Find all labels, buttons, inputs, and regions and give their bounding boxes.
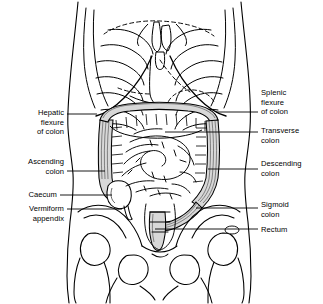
- label-transverse-colon: Transversecolon: [261, 126, 299, 145]
- label-rectum: Rectum: [261, 225, 287, 235]
- vermiform-appendix: [124, 206, 132, 220]
- label-caecum: Caecum: [28, 190, 57, 200]
- label-hepatic-flexure-of-colon: Hepaticflexureof colon: [37, 108, 64, 137]
- anatomy-drawing: [0, 0, 323, 304]
- femur-head-right: [208, 233, 244, 303]
- rectum-marker: [225, 226, 239, 234]
- diaphragm-dashed: [104, 21, 214, 94]
- sigmoid-colon: [162, 202, 202, 230]
- femur-head-left: [74, 233, 110, 303]
- label-descending-colon: Descendingcolon: [261, 159, 302, 178]
- label-splenic-flexure-of-colon: Splenicflexureof colon: [261, 88, 288, 117]
- liver-outline: [130, 56, 158, 105]
- label-ascending-colon: Ascendingcolon: [28, 157, 64, 176]
- small-intestine-coils: [122, 129, 196, 199]
- leader-lines: [60, 112, 258, 229]
- descending-colon: [192, 120, 220, 208]
- torso-outline: [67, 2, 251, 303]
- label-sigmoid-colon: Sigmoidcolon: [261, 200, 289, 219]
- label-vermiform-appendix: Vermiformappendix: [29, 204, 64, 223]
- transverse-colon: [100, 103, 218, 139]
- anatomy-figure: Hepaticflexureof colon Ascendingcolon Ca…: [0, 0, 323, 304]
